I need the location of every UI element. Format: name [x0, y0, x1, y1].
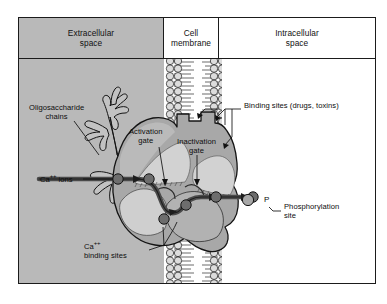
diagram-body: Oligosaccharide chains Ca++ ions Ca++ bi…: [19, 59, 375, 283]
label-ca-binding-charge: ++: [94, 240, 101, 246]
label-inactivation-line2: gate: [177, 146, 216, 155]
label-activation-line2: gate: [129, 136, 162, 145]
header-cell-membrane: Cell membrane: [164, 18, 219, 58]
label-ca-binding-line2: binding sites: [84, 251, 127, 260]
label-ca-ions: Ca++ ions: [40, 172, 73, 184]
header-extracellular-line2: space: [68, 38, 114, 49]
header-extracellular-line1: Extracellular: [68, 28, 114, 39]
label-inactivation-line1: Inactivation: [177, 137, 216, 146]
label-binding-sites-drugs-toxins: Binding sites (drugs, toxins): [244, 101, 339, 110]
label-ca-binding-line1: Ca: [84, 242, 94, 251]
label-oligosaccharide-line1: Oligosaccharide: [29, 103, 84, 112]
header-band: Extracellular space Cell membrane Intrac…: [19, 18, 375, 59]
label-ca-ions-suffix: ions: [56, 175, 72, 184]
label-phosphate-symbol: P: [264, 195, 269, 204]
label-inactivation-gate: Inactivation gate: [177, 137, 216, 155]
label-oligosaccharide-chains: Oligosaccharide chains: [29, 103, 84, 121]
figure-canvas: Extracellular space Cell membrane Intrac…: [0, 0, 387, 304]
header-intracellular-line1: Intracellular: [275, 28, 319, 39]
label-ca-ions-text: Ca: [40, 175, 50, 184]
header-membrane-line1: Cell: [171, 28, 211, 39]
figure-frame: Extracellular space Cell membrane Intrac…: [18, 17, 376, 284]
label-phosphorylation-line2: site: [284, 211, 339, 220]
label-ca-binding-sites: Ca++ binding sites: [84, 239, 127, 260]
label-phosphorylation-site: Phosphorylation site: [284, 202, 339, 220]
label-activation-line1: Activation: [129, 127, 162, 136]
header-extracellular-space: Extracellular space: [19, 18, 164, 58]
header-membrane-line2: membrane: [171, 38, 211, 49]
label-oligosaccharide-line2: chains: [29, 112, 84, 121]
phosphate-site-marker: [242, 194, 253, 205]
label-phosphorylation-line1: Phosphorylation: [284, 202, 339, 211]
header-intracellular-line2: space: [275, 38, 319, 49]
header-intracellular-space: Intracellular space: [219, 18, 375, 58]
diagram-illustration: [19, 59, 375, 283]
label-activation-gate: Activation gate: [129, 127, 162, 145]
